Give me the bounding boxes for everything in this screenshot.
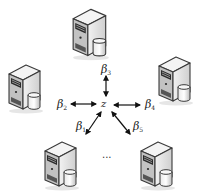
arrow-bottom-right [112,112,130,134]
center-node-label: z [101,99,106,109]
node-label-bottom-right: β5 [133,121,143,133]
node-label-top: β3 [101,64,111,76]
node-label-right: β4 [145,99,155,111]
node-label-bottom-left: β1 [76,121,86,133]
node-label-left: β2 [57,99,67,111]
more-nodes-ellipsis: ... [102,150,112,160]
arrow-bottom-left [86,112,101,134]
star-network-diagram: z β3 β2 β4 β1 β5 ... [0,0,201,196]
